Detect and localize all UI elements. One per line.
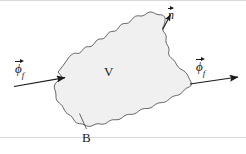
flux-in-label-text: ϕf [15, 62, 24, 79]
flux-out-label: ϕf [196, 56, 205, 77]
volume-label: V [104, 65, 113, 78]
flux-out-arrow [190, 77, 238, 84]
vector-arrow-overbar [168, 5, 174, 10]
boundary-label: B [82, 131, 91, 144]
control-volume-region [54, 12, 191, 126]
flux-in-label: ϕf [15, 58, 24, 79]
vector-arrow-overbar [15, 58, 24, 63]
vector-arrow-overbar [196, 56, 205, 61]
normal-vector-label-text: n [168, 9, 174, 21]
diagram-canvas [0, 0, 246, 154]
flux-out-label-text: ϕf [196, 60, 205, 77]
normal-vector-label: n [168, 5, 174, 21]
flux-volume-diagram: ϕf ϕf n V B [0, 0, 246, 154]
